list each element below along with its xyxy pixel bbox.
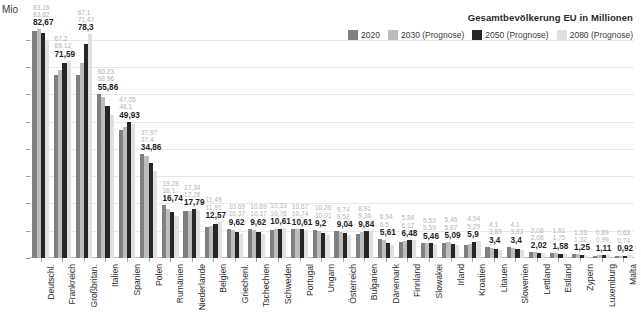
bar-group[interactable]: 2,082,082,02Lettland [526,18,548,258]
bar-value-label-v2020: 67,2 [55,35,76,42]
bar-value-label-v2030: 11,91 [206,204,226,211]
bar-value-label-v2020: 17,34 [184,184,204,191]
bar-group[interactable]: 67,269,1271,59Frankreich [52,18,74,258]
bar-value-label-v2020: 60,23 [98,68,119,75]
x-axis-tick-mark [537,258,538,262]
bar-value-label-v2020: 4,1 [489,221,502,228]
bar-group[interactable]: 10,3310,7610,61Schweden [267,18,289,258]
bar-value-label-v2030: 48,1 [119,103,139,110]
bar-value-label-v2050: 5,61 [380,228,396,237]
bar-2080-prognose-[interactable] [325,235,329,258]
bar-value-label-v2030: 9,36 [358,212,374,219]
bar-2080-prognose-[interactable] [153,171,157,258]
bar-2080-prognose-[interactable] [174,216,178,258]
x-axis-category-label: Österreich [348,264,358,304]
bar-group[interactable]: 10,6710,7410,61Portugal [289,18,311,258]
bar-value-label-v2020: 83,16 [33,4,54,11]
bar-2080-prognose-[interactable] [110,115,114,258]
bar-value-label-v2030: 58,96 [98,75,119,82]
x-axis-category-label: Malta [628,264,638,285]
bar-group[interactable]: 10,2610,019,2Ungarn [310,18,332,258]
bar-group[interactable]: 37,9737,434,86Polen [138,18,160,258]
bar-group[interactable]: 10,6910,379,62Tschechien [246,18,268,258]
bar-2080-prognose-[interactable] [433,244,437,258]
bar-group[interactable]: 11,4911,9112,57Belgien [203,18,225,258]
bar-2080-prognose-[interactable] [261,234,265,258]
x-axis-tick-mark [472,258,473,262]
bar-2080-prognose-[interactable] [627,255,631,258]
bar-value-label-v2030: 17,28 [184,191,204,198]
x-axis-category-label: Portugal [305,264,315,296]
bar-group[interactable]: 1,911,751,58Estland [548,18,570,258]
bar-2080-prognose-[interactable] [369,231,373,258]
bar-value-label-v2020: 37,97 [141,129,161,136]
bar-2080-prognose-[interactable] [606,255,610,258]
bar-group[interactable]: 60,2358,9655,86Italien [95,18,117,258]
bar-value-label-v2050: 2,02 [531,241,547,250]
x-axis-tick-mark [235,258,236,262]
bar-value-label-v2030: 10,76 [270,210,291,217]
x-axis-category-label: Finnland [412,264,422,297]
bar-group[interactable]: 1,331,321,25Zypern [569,18,591,258]
bar-2080-prognose-[interactable] [520,250,524,258]
bar-2080-prognose-[interactable] [476,241,480,258]
bar-group[interactable]: 83,1683,8282,67Deutschl. [30,18,52,258]
bar-2080-prognose-[interactable] [45,41,49,258]
bar-value-labels: 67,171,4778,3 [78,9,95,33]
bar-value-label-v2030: 3,83 [489,228,502,235]
bar-2080-prognose-[interactable] [304,230,308,258]
bar-value-labels: 47,0548,149,93 [119,96,139,120]
bar-2080-prognose-[interactable] [131,124,135,258]
bar-value-label-v2020: 5,53 [423,217,439,224]
bar-group[interactable]: 4,13,833,4Slowenien [505,18,527,258]
bar-value-label-v2050: 78,3 [78,23,95,32]
bar-value-label-v2050: 16,74 [162,194,182,203]
x-axis-category-label: Irland [456,264,466,286]
bar-2080-prognose-[interactable] [563,254,567,258]
bar-2080-prognose-[interactable] [196,210,200,258]
x-axis-tick-mark [127,258,128,262]
bar-group[interactable]: 47,0548,149,93Spanien [116,18,138,258]
bar-2080-prognose-[interactable] [541,253,545,258]
bar-group[interactable]: 19,2818,116,74Rumänien [159,18,181,258]
bar-group[interactable]: 9,749,529,04Österreich [332,18,354,258]
x-axis-tick-mark [451,258,452,262]
bar-group[interactable]: 5,535,595,46Slowakei [418,18,440,258]
bar-group[interactable]: 5,465,875,09Irland [440,18,462,258]
bar-group[interactable]: 4,13,833,4Litauen [483,18,505,258]
bar-value-labels: 0,890,991,11 [596,229,611,253]
bar-value-labels: 17,3417,2817,79 [184,184,204,208]
bar-group[interactable]: 67,171,4778,3Großbritan. [73,18,95,258]
bar-2080-prognose-[interactable] [390,245,394,258]
bar-group[interactable]: 10,6910,379,62Griechenl. [224,18,246,258]
bar-value-label-v2050: 10,61 [292,218,313,227]
bar-2080-prognose-[interactable] [584,255,588,258]
bar-2080-prognose-[interactable] [88,34,92,258]
bar-group[interactable]: 6,946,55,61Dänemark [375,18,397,258]
bar-2080-prognose-[interactable] [455,245,459,258]
bar-2080-prognose-[interactable] [498,250,502,258]
bar-group[interactable]: 0,630,740,92Malta [612,18,634,258]
x-axis-tick-mark [213,258,214,262]
x-axis-tick-mark [494,258,495,262]
bar-value-label-v2030: 6,17 [401,222,417,229]
bar-2080-prognose-[interactable] [67,61,71,258]
bar-group[interactable]: 17,3417,2817,79Niederlande [181,18,203,258]
bar-2080-prognose-[interactable] [412,240,416,258]
x-axis-category-label: Bulgarien [369,264,379,300]
bar-value-label-v2020: 10,26 [315,204,332,211]
bar-value-label-v2030: 5,59 [423,224,439,231]
bar-value-labels: 8,919,369,84 [358,205,374,229]
bar-2080-prognose-[interactable] [282,228,286,258]
bar-group[interactable]: 0,890,991,11Luxemburg [591,18,613,258]
bar-value-label-v2020: 9,74 [337,206,353,213]
x-axis-category-label: Kroatien [477,264,487,296]
bar-value-labels: 10,6910,379,62 [250,203,267,227]
x-axis-tick-mark [343,258,344,262]
bar-2080-prognose-[interactable] [218,222,222,258]
bar-2080-prognose-[interactable] [239,234,243,258]
bar-group[interactable]: 5,846,176,48Finnland [397,18,419,258]
bar-2080-prognose-[interactable] [347,235,351,258]
bar-group[interactable]: 4,945,295,9Kroatien [461,18,483,258]
bar-group[interactable]: 8,919,369,84Bulgarien [354,18,376,258]
